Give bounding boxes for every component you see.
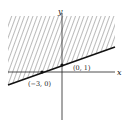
y-axis-label: y bbox=[57, 7, 63, 16]
point-neg3-0 bbox=[40, 70, 43, 73]
inequality-graph: y x (0, 1) (−3, 0) bbox=[0, 0, 125, 125]
point-label-neg3-0: (−3, 0) bbox=[28, 80, 51, 88]
x-axis-label: x bbox=[117, 68, 122, 77]
point-label-0-1: (0, 1) bbox=[73, 64, 91, 72]
point-0-1 bbox=[60, 63, 63, 66]
shaded-region bbox=[8, 16, 115, 86]
